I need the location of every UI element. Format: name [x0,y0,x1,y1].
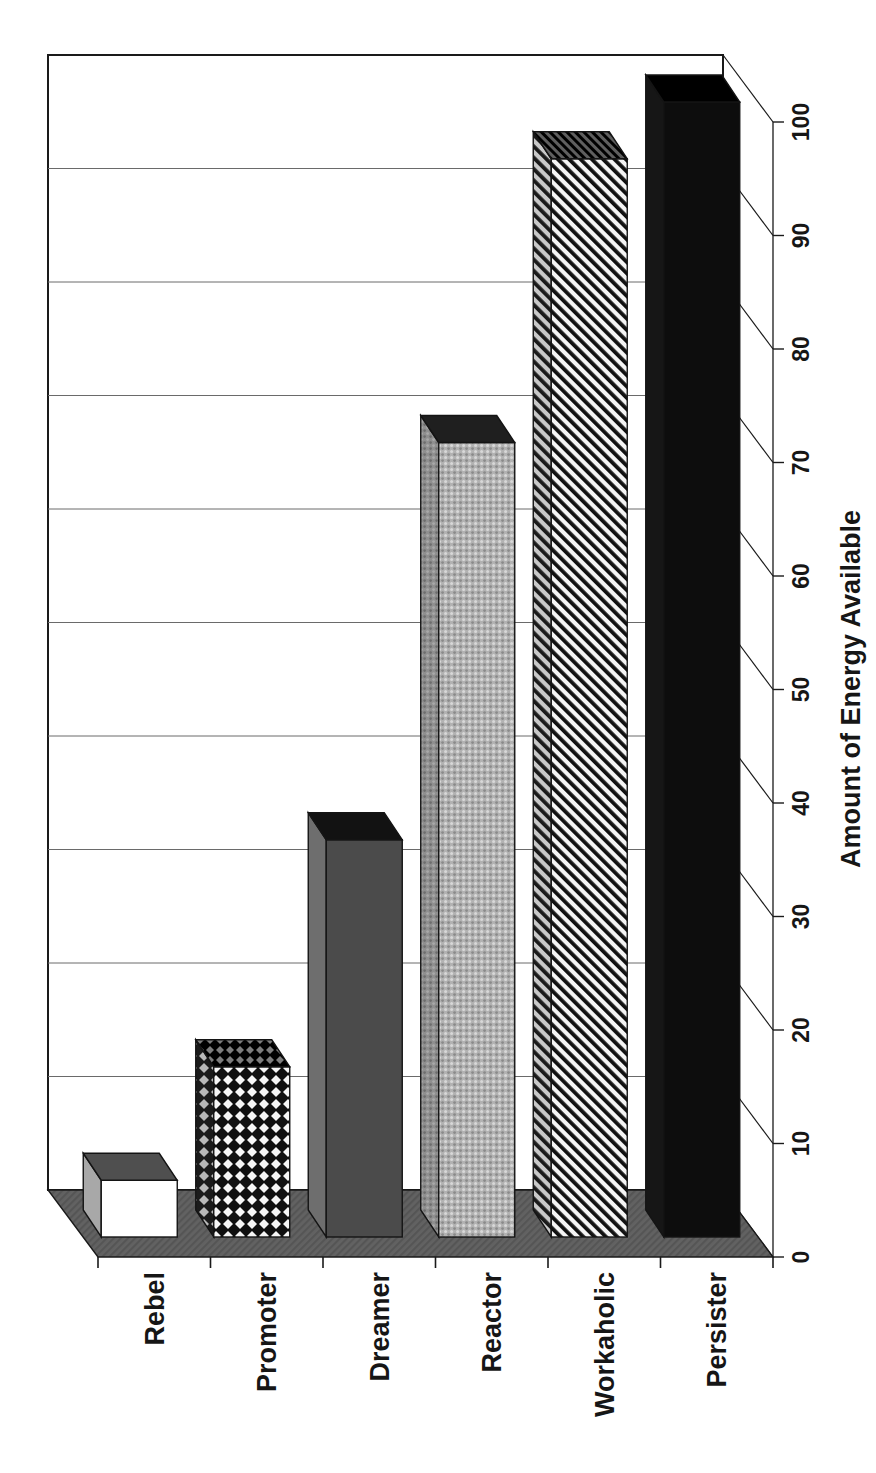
bar-front-face [664,102,740,1237]
value-axis-title: Amount of Energy Available [836,510,866,868]
value-tick-label-30: 30 [788,904,814,930]
bar-front-face [439,443,515,1238]
bar-promoter [196,1040,290,1237]
bar-front-face [551,159,627,1237]
bar-rebel [83,1153,177,1237]
bar-side-face [421,416,439,1238]
category-label-rebel: Rebel [140,1272,170,1346]
bar-side-face [646,75,664,1237]
bar-reactor [421,416,515,1238]
bar-front-face [101,1180,177,1237]
value-tick-label-50: 50 [788,677,814,703]
value-tick-label-40: 40 [788,790,814,816]
value-tick-label-10: 10 [788,1131,814,1157]
value-tick-label-90: 90 [788,223,814,249]
bar-workaholic [533,132,627,1237]
energy-3d-bar-chart: 0102030405060708090100RebelPromoterDream… [0,0,876,1473]
category-label-reactor: Reactor [477,1272,507,1373]
bar-persister [646,75,740,1237]
category-label-dreamer: Dreamer [365,1272,395,1382]
category-label-workaholic: Workaholic [590,1272,620,1417]
chart-canvas: 0102030405060708090100RebelPromoterDream… [0,0,876,1473]
scanned-chart-page: 0102030405060708090100RebelPromoterDream… [0,0,876,1473]
value-tick-label-20: 20 [788,1017,814,1043]
value-tick-label-0: 0 [788,1251,814,1264]
category-label-persister: Persister [702,1272,732,1388]
bar-side-face [308,813,326,1237]
bar-front-face [214,1067,290,1237]
value-tick-label-70: 70 [788,450,814,476]
value-tick-label-60: 60 [788,563,814,589]
bar-dreamer [308,813,402,1237]
bar-front-face [326,840,402,1237]
value-tick-label-80: 80 [788,336,814,362]
bar-side-face [533,132,551,1237]
bar-side-face [196,1040,214,1237]
value-tick-label-100: 100 [788,103,814,141]
category-label-promoter: Promoter [252,1272,282,1393]
